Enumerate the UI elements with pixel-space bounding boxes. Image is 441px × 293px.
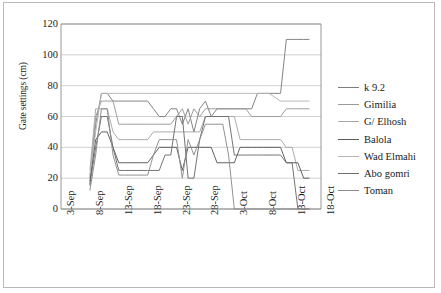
legend-item-label: Toman — [364, 185, 393, 196]
legend-item-label: G/ Elhosh — [364, 116, 406, 127]
series-line — [90, 39, 310, 185]
legend: k 9.2GimiliaG/ ElhoshBalolaWad ElmahiAbo… — [338, 79, 441, 199]
legend-item-label: k 9.2 — [364, 82, 385, 93]
legend-color-swatch — [338, 87, 359, 88]
legend-color-swatch — [338, 104, 359, 105]
legend-color-swatch — [338, 173, 359, 174]
legend-item[interactable]: Abo gomri — [338, 165, 441, 182]
legend-color-swatch — [338, 139, 359, 140]
legend-item-label: Gimilia — [364, 99, 396, 110]
legend-item-label: Wad Elmahi — [364, 151, 416, 162]
legend-item[interactable]: k 9.2 — [338, 79, 441, 96]
legend-item[interactable]: Balola — [338, 131, 441, 148]
legend-color-swatch — [338, 190, 359, 191]
legend-color-swatch — [338, 121, 359, 122]
series-lines — [90, 39, 310, 209]
chart-frame: 120100806040200 Gate settings (cm) 3-Sep… — [3, 2, 435, 288]
legend-item-label: Abo gomri — [364, 168, 410, 179]
legend-item[interactable]: Toman — [338, 182, 441, 199]
legend-item[interactable]: Wad Elmahi — [338, 148, 441, 165]
legend-item[interactable]: Gimilia — [338, 96, 441, 113]
legend-color-swatch — [338, 156, 359, 157]
legend-item[interactable]: G/ Elhosh — [338, 113, 441, 130]
legend-item-label: Balola — [364, 134, 391, 145]
